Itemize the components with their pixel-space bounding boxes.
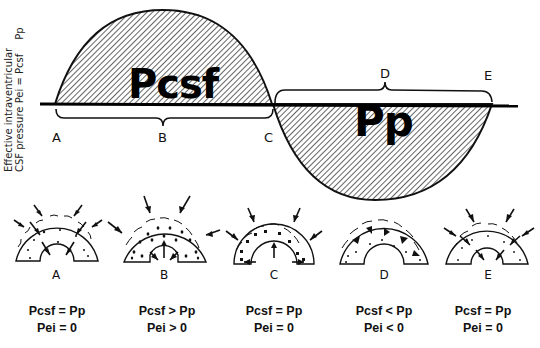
pcsf-region-label: Pcsf bbox=[128, 64, 218, 104]
stage-d-ventricle-icon bbox=[340, 220, 428, 264]
stage-e-ventricle-icon bbox=[444, 209, 534, 264]
stage-d-equations: Pcsf < Pp Pei < 0 bbox=[329, 303, 439, 337]
stage-label-e: E bbox=[478, 268, 498, 282]
stage-c-pei-relation: Pei = 0 bbox=[219, 320, 329, 337]
stage-a-equations: Pcsf = Pp Pei = 0 bbox=[2, 303, 112, 337]
brace-a-to-c bbox=[56, 109, 273, 126]
stage-label-d: D bbox=[374, 268, 394, 282]
stage-e-equations: Pcsf = Pp Pei = 0 bbox=[428, 303, 538, 337]
stage-b-ventricle-icon bbox=[108, 196, 220, 262]
point-label-e: E bbox=[484, 68, 492, 83]
stage-e-pei-relation: Pei = 0 bbox=[428, 320, 538, 337]
stage-label-c: C bbox=[264, 268, 284, 282]
point-label-d: D bbox=[380, 66, 390, 81]
point-label-b: B bbox=[158, 130, 167, 145]
stage-b-equations: Pcsf > Pp Pei > 0 bbox=[112, 303, 222, 337]
point-label-a: A bbox=[52, 130, 61, 145]
y-axis-label-line1: Effective intraventricular bbox=[3, 27, 14, 172]
stage-b-pressure-relation: Pcsf > Pp bbox=[112, 303, 222, 320]
stage-c-pressure-relation: Pcsf = Pp bbox=[219, 303, 329, 320]
stage-label-a: A bbox=[46, 268, 66, 282]
stage-a-ventricle-icon bbox=[14, 205, 102, 261]
stage-d-pei-relation: Pei < 0 bbox=[329, 320, 439, 337]
stage-b-pei-relation: Pei > 0 bbox=[112, 320, 222, 337]
pp-region-label: Pp bbox=[354, 100, 413, 144]
y-axis-label: Effective intraventricular CSF pressure … bbox=[3, 27, 25, 172]
y-axis-label-line2: CSF pressure Pei = Pcsf bbox=[14, 54, 25, 172]
y-axis-label-pp: Pp bbox=[14, 27, 25, 39]
stage-d-pressure-relation: Pcsf < Pp bbox=[329, 303, 439, 320]
stage-e-pressure-relation: Pcsf = Pp bbox=[428, 303, 538, 320]
diagram-canvas bbox=[0, 0, 540, 348]
point-label-c: C bbox=[264, 130, 273, 145]
stage-label-b: B bbox=[154, 268, 174, 282]
stage-c-ventricle-icon bbox=[226, 208, 322, 265]
stage-c-equations: Pcsf = Pp Pei = 0 bbox=[219, 303, 329, 337]
stage-a-pei-relation: Pei = 0 bbox=[2, 320, 112, 337]
baseline-axis bbox=[40, 104, 518, 106]
stage-a-pressure-relation: Pcsf = Pp bbox=[2, 303, 112, 320]
